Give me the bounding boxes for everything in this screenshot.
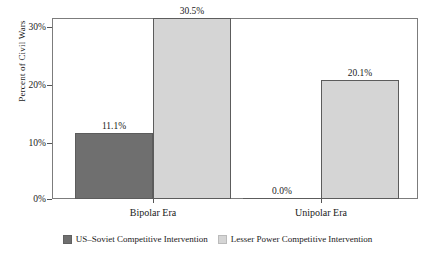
chart-legend: US–Soviet Competitive Intervention Lesse…	[0, 234, 435, 244]
legend-swatch-lesser-power	[218, 235, 227, 244]
bar-label-unipolar-us-soviet: 0.0%	[242, 186, 322, 196]
x-tick-mark-bipolar	[153, 199, 154, 203]
bar-bipolar-us-soviet[interactable]	[75, 133, 153, 199]
x-tick-mark-unipolar	[321, 199, 322, 203]
y-tick-label-10: 10%	[10, 138, 46, 148]
y-tick-label-0: 0%	[10, 194, 46, 204]
bar-unipolar-lesser-power[interactable]	[321, 80, 399, 199]
legend-swatch-us-soviet	[63, 235, 72, 244]
y-tick-label-20: 20%	[10, 80, 46, 90]
y-tick-mark-0	[47, 199, 52, 200]
legend-label-us-soviet: US–Soviet Competitive Intervention	[76, 234, 208, 244]
x-tick-label-bipolar: Bipolar Era	[113, 207, 193, 218]
bar-label-bipolar-us-soviet: 11.1%	[74, 121, 154, 131]
y-tick-label-30: 30%	[10, 22, 46, 32]
legend-item-lesser-power[interactable]: Lesser Power Competitive Intervention	[218, 234, 373, 244]
bar-bipolar-lesser-power[interactable]	[153, 18, 231, 199]
bar-unipolar-us-soviet[interactable]	[243, 198, 321, 199]
y-axis-title: Percent of Civil Wars	[17, 1, 27, 121]
bar-label-bipolar-lesser-power: 30.5%	[152, 6, 232, 16]
legend-item-us-soviet[interactable]: US–Soviet Competitive Intervention	[63, 234, 208, 244]
bar-chart: Percent of Civil Wars 30% 20% 10% 0% 11.…	[0, 0, 435, 260]
x-tick-label-unipolar: Unipolar Era	[281, 207, 361, 218]
legend-label-lesser-power: Lesser Power Competitive Intervention	[231, 234, 373, 244]
bar-label-unipolar-lesser-power: 20.1%	[320, 68, 400, 78]
